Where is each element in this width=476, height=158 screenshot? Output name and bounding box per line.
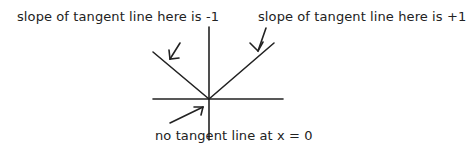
abs-right-arm — [209, 43, 274, 99]
right-arrow-icon — [250, 28, 266, 51]
right-slope-label: slope of tangent line here is +1 — [258, 9, 466, 24]
no-tangent-label: no tangent line at x = 0 — [155, 128, 313, 143]
left-arrow-icon — [169, 43, 180, 59]
bottom-arrow-icon — [170, 107, 203, 123]
left-slope-label: slope of tangent line here is -1 — [17, 9, 219, 24]
abs-left-arm — [153, 52, 209, 99]
